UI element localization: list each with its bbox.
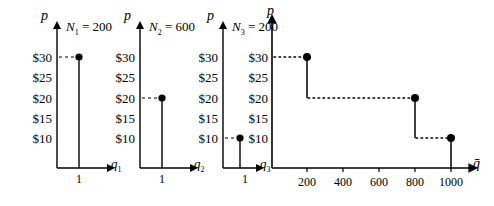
- panel-2-ytick-10: $10: [97, 132, 135, 145]
- panel-1-price-axis-label: p: [41, 9, 48, 23]
- panel-1-header: N1 = 200: [66, 20, 112, 37]
- panel-1-quantity-axis-label: q1: [111, 157, 122, 174]
- aggregate-xtick-600: 600: [361, 176, 397, 188]
- aggregate-ytick-20: $20: [230, 92, 268, 105]
- panel-2-ytick-20: $20: [97, 92, 135, 105]
- panel-3-header: N3 = 200: [232, 20, 278, 37]
- aggregate-ytick-30: $30: [230, 51, 268, 64]
- panel-2-ytick-30: $30: [97, 51, 135, 64]
- panel-1-ytick-15: $15: [14, 112, 52, 125]
- panel-2-ytick-25: $25: [97, 71, 135, 84]
- panel-2-price-axis-label: p: [124, 9, 131, 23]
- aggregate-price-axis-label: p: [267, 4, 274, 18]
- aggregate-point-1000-10: [447, 134, 455, 142]
- panel-1-ytick-30: $30: [14, 51, 52, 64]
- panel-1-demand-point: [75, 53, 82, 60]
- aggregate-xtick-400: 400: [325, 176, 361, 188]
- panel-2-ytick-15: $15: [97, 112, 135, 125]
- panel-3-ytick-10: $10: [180, 132, 218, 145]
- panel-2-xtick-1: 1: [156, 173, 168, 185]
- aggregate-point-200-30: [303, 53, 311, 61]
- panel-2-header: N2 = 600: [149, 20, 195, 37]
- aggregate-ytick-25: $25: [230, 71, 268, 84]
- aggregate-quantity-axis-label: q̄: [473, 157, 480, 171]
- panel-3-xtick-1: 1: [239, 173, 251, 185]
- panel-3-ytick-25: $25: [180, 71, 218, 84]
- aggregate-panel: [272, 22, 470, 172]
- panel-1-ytick-25: $25: [14, 71, 52, 84]
- aggregate-xtick-800: 800: [397, 176, 433, 188]
- panel-1-xtick-1: 1: [73, 173, 85, 185]
- panel-3-ytick-20: $20: [180, 92, 218, 105]
- aggregate-ytick-15: $15: [230, 112, 268, 125]
- aggregate-point-800-20: [411, 94, 419, 102]
- aggregate-xtick-200: 200: [289, 176, 325, 188]
- panel-3-ytick-15: $15: [180, 112, 218, 125]
- panel-1-ytick-10: $10: [14, 132, 52, 145]
- panel-2-quantity-axis-label: q2: [194, 157, 205, 174]
- panel-2-demand-point: [158, 94, 165, 101]
- panel-3-ytick-30: $30: [180, 51, 218, 64]
- aggregate-ytick-10: $10: [230, 132, 268, 145]
- aggregate-xtick-1000: 1000: [433, 176, 469, 188]
- panel-3-quantity-axis-label: q3: [260, 157, 271, 174]
- panel-1-ytick-20: $20: [14, 92, 52, 105]
- panel-3-price-axis-label: p: [207, 9, 214, 23]
